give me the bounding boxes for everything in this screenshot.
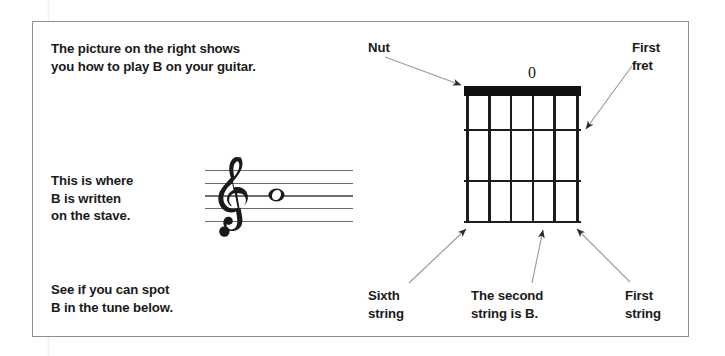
string-4 <box>510 86 512 223</box>
open-string-marker-0: 0 <box>523 64 541 82</box>
tune-prompt-text: See if you can spot B in the tune below. <box>51 281 231 316</box>
stave-explanation-text: This is where B is written on the stave. <box>51 172 211 225</box>
callout-label-second-string: The second string is B. <box>471 287 581 322</box>
nut-bar <box>464 86 581 96</box>
callout-label-first-string: First string <box>625 287 685 322</box>
string-6 <box>466 86 469 223</box>
callout-label-sixth-string: Sixth string <box>368 287 428 322</box>
string-5 <box>488 86 491 223</box>
guitar-fretboard-diagram <box>464 86 581 223</box>
string-1 <box>576 86 580 223</box>
fret-line-2 <box>464 180 581 182</box>
callout-label-first-fret: First fret <box>632 39 690 74</box>
callout-label-nut: Nut <box>368 39 390 57</box>
fret-line-1 <box>464 129 581 131</box>
treble-clef-icon <box>211 155 255 239</box>
whole-note-b <box>268 188 285 202</box>
string-2 <box>553 86 556 223</box>
music-stave <box>205 170 353 223</box>
intro-instruction-text: The picture on the right shows you how t… <box>51 40 351 75</box>
fret-line-3 <box>464 221 581 223</box>
worksheet-page: The picture on the right shows you how t… <box>0 0 725 356</box>
string-3 <box>532 86 534 223</box>
